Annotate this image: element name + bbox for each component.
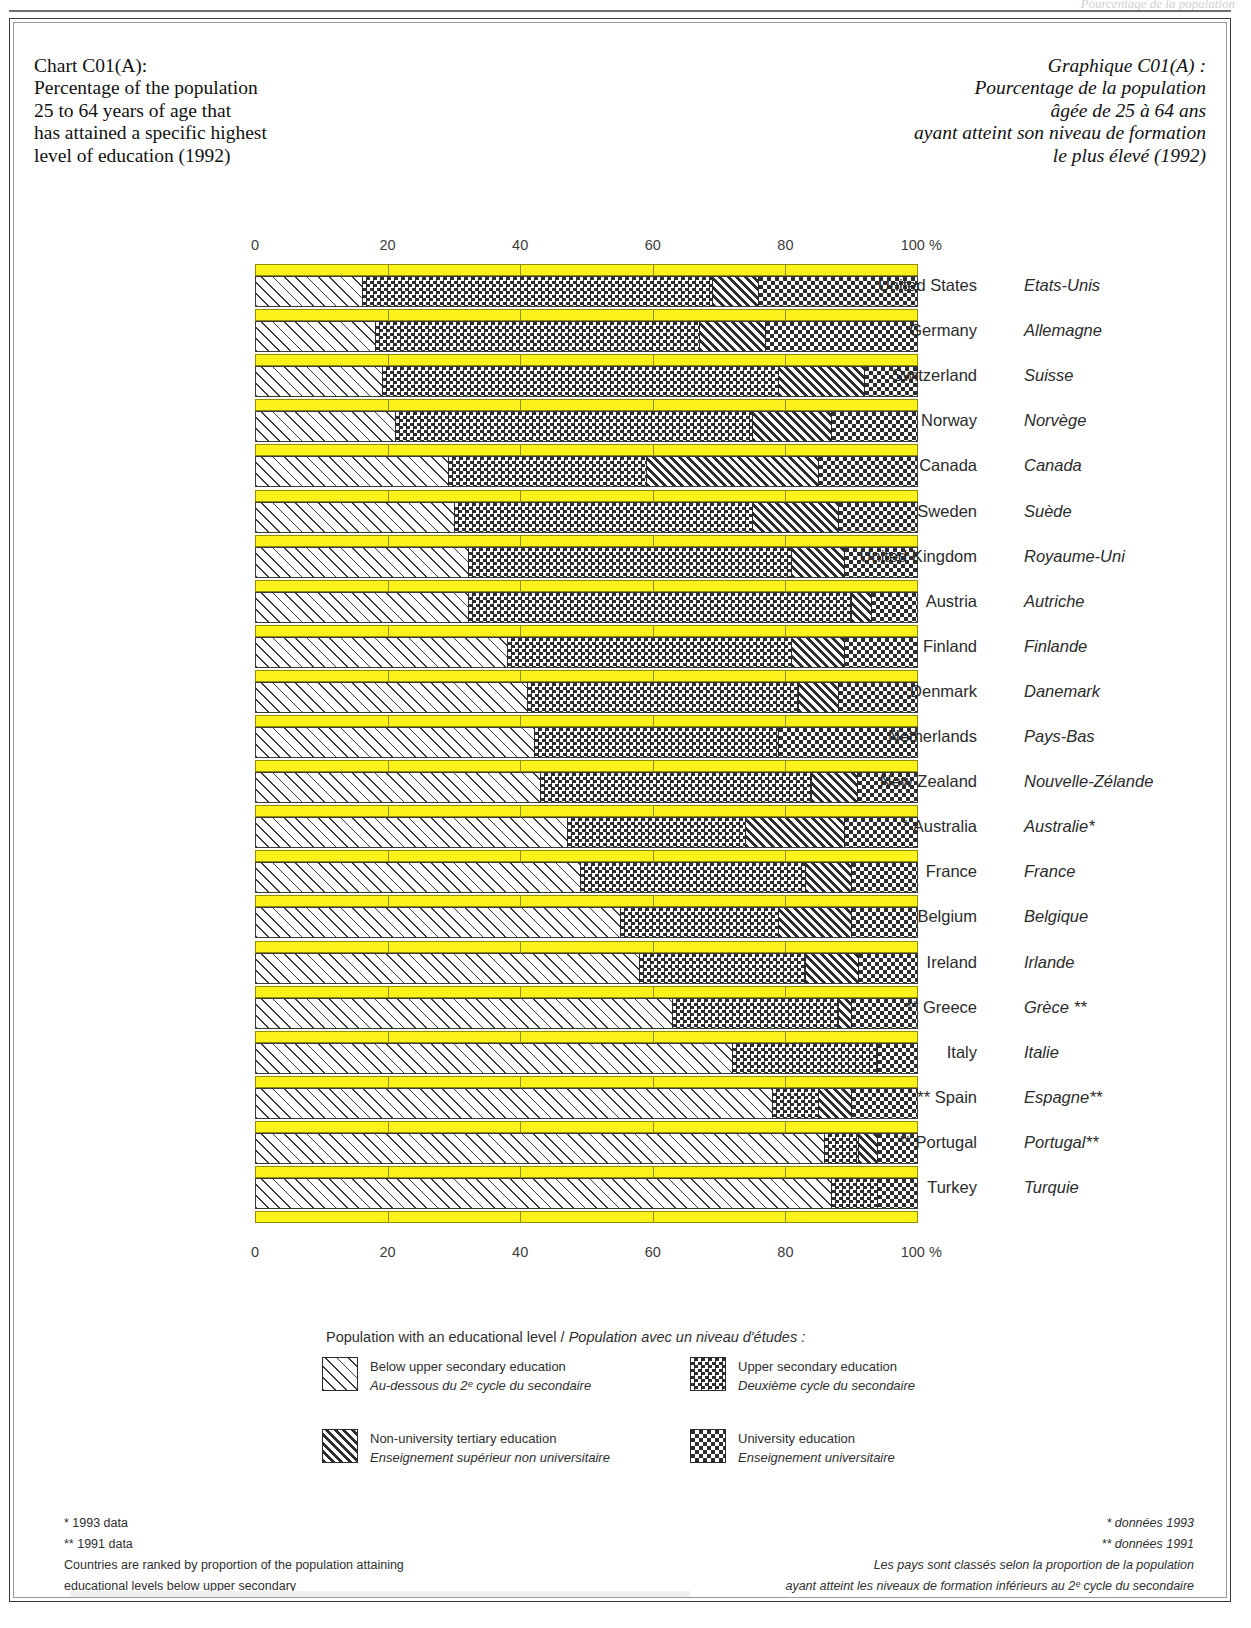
row-background-bar	[255, 1166, 918, 1178]
bar-segment-uni	[838, 503, 917, 532]
country-label-fr: Turquie	[1024, 1166, 1079, 1209]
grid-line-80	[785, 895, 786, 907]
stacked-bar	[255, 411, 918, 442]
country-label-en: Belgium	[917, 895, 977, 938]
grid-line-20	[388, 444, 389, 456]
bar-segment-upper	[732, 1044, 877, 1073]
bar-segment-below	[256, 1089, 772, 1118]
row-background-bar	[255, 1211, 918, 1223]
grid-line-20	[388, 625, 389, 637]
grid-line-40	[520, 354, 521, 366]
grid-line-60	[653, 535, 654, 547]
row-background-bar	[255, 715, 918, 727]
country-label-fr: Canada	[1024, 444, 1082, 487]
grid-line-60	[653, 1211, 654, 1223]
country-label-en: Sweden	[917, 490, 977, 533]
bar-row	[255, 399, 918, 444]
title-fr-line-1: Graphique C01(A) :	[914, 55, 1206, 77]
row-background-bar	[255, 895, 918, 907]
grid-line-80	[785, 1076, 786, 1088]
grid-line-40	[520, 444, 521, 456]
country-label-en: United Kingdom	[860, 535, 977, 578]
grid-line-20	[388, 850, 389, 862]
bar-segment-below	[256, 638, 507, 667]
bar-segment-upper	[620, 908, 779, 937]
bar-row	[255, 760, 918, 805]
grid-line-80	[785, 535, 786, 547]
country-label-fr: Portugal**	[1024, 1121, 1098, 1164]
legend-label-below-fr: Au-dessous du 2ᵉ cycle du secondaire	[370, 1376, 591, 1395]
legend-swatch-nonuniversity-icon	[322, 1429, 358, 1463]
stacked-bar	[255, 862, 918, 893]
stacked-bar	[255, 907, 918, 938]
grid-line-40	[520, 309, 521, 321]
row-background-bar	[255, 399, 918, 411]
bar-segment-upper	[772, 1089, 818, 1118]
x-tick-80: 80	[777, 237, 793, 253]
bar-segment-upper	[468, 548, 792, 577]
stacked-bar	[255, 502, 918, 533]
country-label-fr: Finlande	[1024, 625, 1087, 668]
bar-segment-below	[256, 954, 639, 983]
stacked-bar	[255, 772, 918, 803]
grid-line-20	[388, 490, 389, 502]
grid-line-40	[520, 264, 521, 276]
stacked-bar-plot	[255, 264, 918, 1212]
grid-line-40	[520, 1121, 521, 1133]
grid-line-80	[785, 1121, 786, 1133]
country-label-fr: Nouvelle-Zélande	[1024, 760, 1153, 803]
row-background-bar	[255, 535, 918, 547]
grid-line-60	[653, 1121, 654, 1133]
footnote-en-line-1: * 1993 data	[64, 1513, 404, 1534]
legend-item-nonuniversity: Non-university tertiary educationEnseign…	[322, 1429, 610, 1467]
grid-line-80	[785, 850, 786, 862]
stacked-bar	[255, 1088, 918, 1119]
grid-line-80	[785, 715, 786, 727]
bar-segment-upper	[831, 1179, 877, 1208]
bar-segment-uni	[851, 863, 917, 892]
grid-line-80	[785, 805, 786, 817]
bar-segment-nonuni	[778, 908, 851, 937]
bar-segment-nonuni	[798, 683, 838, 712]
bar-row	[255, 1166, 918, 1211]
bar-segment-below	[256, 1044, 732, 1073]
country-label-fr: Etats-Unis	[1024, 264, 1100, 307]
bar-row	[255, 941, 918, 986]
grid-line-40	[520, 625, 521, 637]
stacked-bar	[255, 276, 918, 307]
grid-line-40	[520, 1031, 521, 1043]
grid-line-80	[785, 1031, 786, 1043]
grid-line-60	[653, 490, 654, 502]
title-fr-line-3: âgée de 25 à 64 ans	[914, 100, 1206, 122]
grid-line-60	[653, 354, 654, 366]
bar-row	[255, 444, 918, 489]
bar-segment-uni	[831, 412, 917, 441]
country-label-fr: Espagne**	[1024, 1076, 1102, 1119]
x-tick-40: 40	[512, 1244, 528, 1260]
grid-line-40	[520, 941, 521, 953]
stacked-bar	[255, 547, 918, 578]
grid-line-60	[653, 580, 654, 592]
bar-row	[255, 580, 918, 625]
country-label-en: Turkey	[927, 1166, 977, 1209]
legend-label-upper-en: Upper secondary education	[738, 1357, 915, 1376]
bar-segment-nonuni	[646, 457, 818, 486]
bar-segment-nonuni	[811, 773, 857, 802]
grid-line-20	[388, 760, 389, 772]
bar-row	[255, 1031, 918, 1076]
stacked-bar	[255, 1133, 918, 1164]
x-tick-40: 40	[512, 237, 528, 253]
grid-line-40	[520, 895, 521, 907]
bar-segment-upper	[454, 503, 751, 532]
grid-line-40	[520, 850, 521, 862]
bar-row	[255, 715, 918, 760]
grid-line-40	[520, 1211, 521, 1223]
grid-line-80	[785, 444, 786, 456]
bar-segment-nonuni	[805, 863, 851, 892]
country-label-fr: Belgique	[1024, 895, 1088, 938]
bar-segment-nonuni	[791, 548, 844, 577]
footnote-fr-line-2: ** données 1991	[785, 1534, 1194, 1555]
bar-segment-upper	[567, 818, 745, 847]
stacked-bar	[255, 817, 918, 848]
grid-line-20	[388, 264, 389, 276]
